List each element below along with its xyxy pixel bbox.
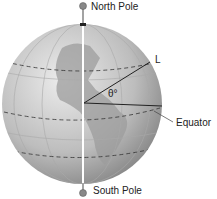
- south-pole-pin: [80, 190, 87, 197]
- globe-graphic: [0, 0, 217, 199]
- equator-label: Equator: [176, 118, 211, 128]
- north-pole-pin: [80, 3, 87, 10]
- north-pole-label: North Pole: [91, 2, 138, 12]
- globe-diagram: North Pole South Pole Equator L θ°: [0, 0, 217, 199]
- line-L-label: L: [155, 55, 161, 65]
- theta-angle-label: θ°: [108, 89, 118, 99]
- south-pole-label: South Pole: [93, 186, 142, 196]
